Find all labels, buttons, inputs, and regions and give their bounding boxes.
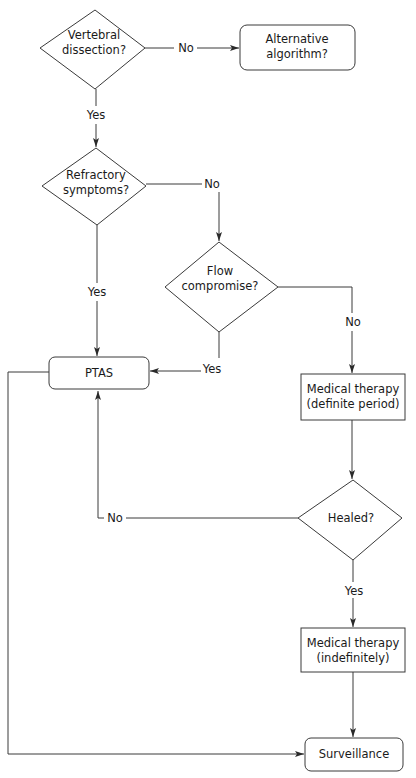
node-vertebral-dissection: Vertebral dissection?: [40, 10, 145, 89]
node-vd-line2: dissection?: [62, 43, 126, 57]
node-surveillance: Surveillance: [305, 738, 403, 771]
node-ptas-label: PTAS: [85, 366, 113, 380]
node-healed: Healed?: [298, 480, 402, 560]
edge-label-healed-no: No: [107, 511, 123, 525]
edge-fc-no: No: [278, 287, 361, 373]
node-medical-therapy-definite: Medical therapy (definite period): [301, 374, 405, 420]
edge-label-rs-no: No: [204, 177, 220, 191]
node-medical-therapy-indefinite: Medical therapy (indefinitely): [301, 628, 405, 672]
flowchart-canvas: No Yes No Yes Yes No No Yes: [0, 0, 416, 778]
edge-label-vd-yes: Yes: [86, 108, 106, 122]
node-healed-label: Healed?: [328, 511, 374, 525]
node-alternative-algorithm: Alternative algorithm?: [240, 25, 355, 70]
node-rs-line2: symptoms?: [63, 183, 129, 197]
edge-vd-no: No: [145, 41, 239, 55]
node-alt-line1: Alternative: [265, 32, 328, 46]
edge-vd-yes: Yes: [86, 89, 106, 147]
edge-healed-no: No: [98, 391, 298, 525]
node-vd-line1: Vertebral: [68, 28, 121, 42]
edge-healed-yes: Yes: [344, 560, 364, 627]
edge-label-fc-no: No: [345, 315, 361, 329]
edge-rs-no: No: [146, 177, 220, 241]
node-mti-line1: Medical therapy: [307, 636, 400, 650]
node-alt-line2: algorithm?: [266, 47, 328, 61]
node-mtd-line1: Medical therapy: [307, 382, 400, 396]
edge-label-rs-yes: Yes: [87, 285, 107, 299]
node-flow-compromise: Flow compromise?: [165, 242, 278, 332]
edge-label-healed-yes: Yes: [344, 584, 364, 598]
node-rs-line1: Refractory: [66, 168, 126, 182]
edge-fc-yes: Yes: [150, 332, 221, 376]
edge-label-vd-no: No: [178, 41, 194, 55]
edge-label-fc-yes: Yes: [202, 362, 222, 376]
node-fc-line2: compromise?: [182, 279, 259, 293]
edge-ptas-to-surv: [8, 372, 304, 754]
node-surv-label: Surveillance: [319, 747, 390, 761]
node-ptas: PTAS: [49, 357, 149, 389]
flowchart-svg: No Yes No Yes Yes No No Yes: [0, 0, 416, 778]
edge-rs-yes: Yes: [87, 225, 107, 356]
node-refractory-symptoms: Refractory symptoms?: [42, 148, 146, 225]
node-fc-line1: Flow: [207, 264, 233, 278]
node-mtd-line2: (definite period): [307, 397, 400, 411]
node-mti-line2: (indefinitely): [316, 651, 389, 665]
